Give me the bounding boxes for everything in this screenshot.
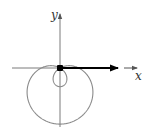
polar-diagram: y x [0, 0, 154, 132]
x-axis-label: x [135, 69, 142, 83]
origin-point [57, 65, 63, 71]
y-axis-label: y [50, 8, 58, 22]
